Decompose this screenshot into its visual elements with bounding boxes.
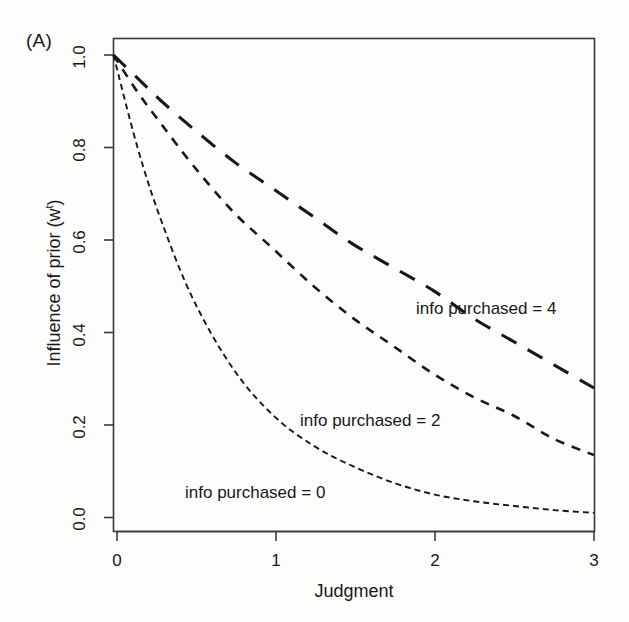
data-curves — [114, 55, 595, 513]
figure-panel-a: (A) Influence of prior (wt) Judgment 0.0… — [0, 0, 629, 622]
curve-info-purchased-2 — [114, 55, 595, 455]
y-axis-ticks — [104, 55, 114, 518]
x-axis-ticks — [117, 532, 594, 542]
plot-canvas — [0, 0, 629, 622]
curve-info-purchased-4 — [114, 55, 595, 388]
